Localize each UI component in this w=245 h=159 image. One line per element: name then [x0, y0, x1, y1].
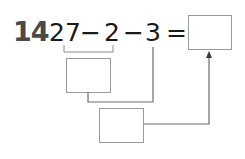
connector-step2-to-answer [144, 57, 209, 124]
connector-lines [0, 0, 245, 159]
connector-step1-to-3 [88, 93, 153, 102]
arrow-up-icon [206, 51, 212, 58]
bracket-27-2 [64, 45, 113, 52]
